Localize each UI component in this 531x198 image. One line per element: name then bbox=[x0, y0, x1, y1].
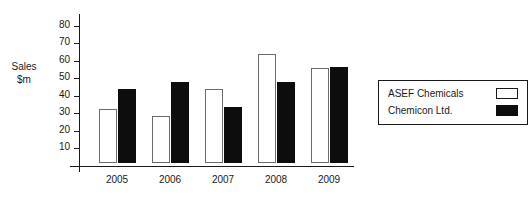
bar bbox=[330, 67, 348, 163]
y-axis-tick-label: 20 bbox=[59, 124, 70, 136]
bar bbox=[224, 107, 242, 163]
bar bbox=[277, 82, 295, 163]
chart-legend: ASEF Chemicals Chemicon Ltd. bbox=[378, 80, 528, 125]
y-axis-tick-label: 10 bbox=[59, 141, 70, 153]
bar bbox=[152, 116, 170, 163]
legend-item-chemicon-ltd: Chemicon Ltd. bbox=[388, 103, 518, 119]
bar bbox=[118, 89, 136, 163]
x-axis-tick-label: 2009 bbox=[303, 174, 355, 185]
legend-label: ASEF Chemicals bbox=[388, 87, 464, 101]
bars-layer bbox=[79, 14, 364, 166]
x-axis-tick-label: 2005 bbox=[91, 174, 143, 185]
bar bbox=[99, 109, 117, 163]
legend-item-asef-chemicals: ASEF Chemicals bbox=[388, 86, 518, 102]
bar bbox=[311, 68, 329, 163]
x-axis-tick-label: 2007 bbox=[197, 174, 249, 185]
y-axis-tick-label: 40 bbox=[59, 89, 70, 101]
x-axis-tick-label: 2008 bbox=[250, 174, 302, 185]
y-axis-title: Sales $m bbox=[2, 60, 46, 86]
y-axis-title-line-2: $m bbox=[2, 73, 46, 86]
bar bbox=[205, 89, 223, 163]
x-axis-line bbox=[70, 166, 354, 167]
y-axis-tick-label: 60 bbox=[59, 54, 70, 66]
y-axis-tick-label: 70 bbox=[59, 36, 70, 48]
bar bbox=[171, 82, 189, 163]
legend-swatch-black-square-filled-icon bbox=[496, 105, 518, 116]
y-axis-tick-label: 50 bbox=[59, 71, 70, 83]
plot-area: 1020304050607080 20052006200720082009 bbox=[79, 14, 364, 166]
sales-bar-chart: Sales $m 1020304050607080 20052006200720… bbox=[0, 0, 531, 198]
bar bbox=[258, 54, 276, 163]
y-axis-title-line-1: Sales bbox=[2, 60, 46, 73]
y-axis-tick-label: 80 bbox=[59, 19, 70, 31]
legend-swatch-white-square-outline-icon bbox=[496, 88, 518, 99]
y-axis-tick-label: 30 bbox=[59, 106, 70, 118]
legend-label: Chemicon Ltd. bbox=[388, 104, 452, 118]
x-axis-tick-label: 2006 bbox=[144, 174, 196, 185]
